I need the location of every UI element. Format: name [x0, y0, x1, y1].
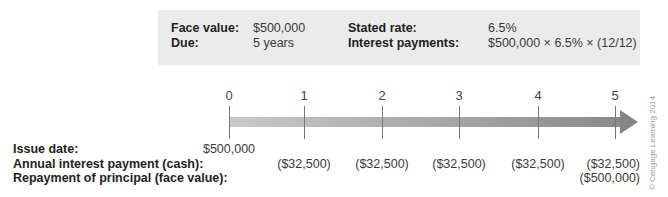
tick-mark-1 [304, 106, 305, 139]
interest-payment-year-3: ($32,500) [432, 157, 486, 171]
tick-mark-2 [382, 106, 383, 139]
tick-label-2: 2 [378, 88, 385, 103]
issue-date-label: Issue date: [13, 142, 78, 156]
principal-repayment-year-5: ($500,000) [580, 171, 640, 185]
tick-mark-3 [459, 106, 460, 139]
tick-label-1: 1 [300, 88, 307, 103]
interest-payment-year-2: ($32,500) [355, 157, 409, 171]
copyright-notice: © Cengage Learning 2014 [648, 96, 657, 190]
tick-mark-5 [615, 106, 616, 139]
interest-payment-year-4: ($32,500) [511, 157, 565, 171]
timeline-bar [229, 117, 621, 127]
timeline-arrow-icon [620, 110, 638, 134]
issue-date-amount: $500,000 [203, 142, 255, 156]
interest-payment-year-1: ($32,500) [277, 157, 331, 171]
interest-payment-year-5: ($32,500) [586, 157, 640, 171]
repayment-label: Repayment of principal (face value): [13, 171, 228, 185]
tick-label-5: 5 [611, 88, 618, 103]
tick-label-4: 4 [534, 88, 541, 103]
tick-label-3: 3 [455, 88, 462, 103]
tick-mark-0 [229, 106, 230, 139]
tick-label-0: 0 [225, 88, 232, 103]
annual-interest-label: Annual interest payment (cash): [13, 157, 203, 171]
tick-mark-4 [538, 106, 539, 139]
